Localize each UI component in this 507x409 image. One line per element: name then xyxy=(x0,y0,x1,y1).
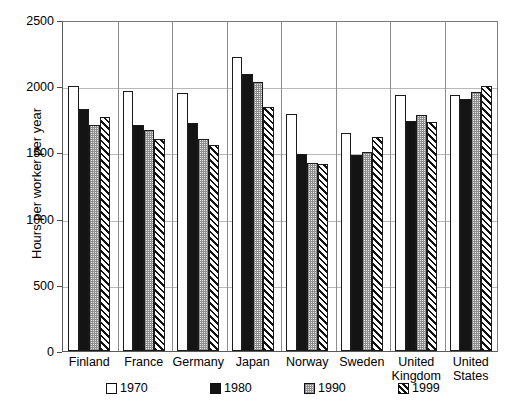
group-separator xyxy=(281,22,282,351)
legend-swatch-1980 xyxy=(210,383,221,394)
x-label-japan: Japan xyxy=(226,355,281,369)
x-label-finland: Finland xyxy=(62,355,117,369)
legend-swatch-1970 xyxy=(106,383,117,394)
x-label-germany: Germany xyxy=(171,355,226,369)
group-separator xyxy=(118,22,119,351)
bar-finland-1990 xyxy=(89,125,99,351)
group-separator xyxy=(172,22,173,351)
x-label-line: Japan xyxy=(226,355,281,369)
bar-united-states-1999 xyxy=(481,86,491,351)
x-label-united-states: UnitedStates xyxy=(444,355,499,383)
plot-area xyxy=(62,21,498,352)
y-tick-label: 1500 xyxy=(8,147,54,159)
chart-legend: 1970198019901999 xyxy=(62,381,498,401)
bar-norway-1999 xyxy=(318,164,328,351)
bar-japan-1980 xyxy=(242,74,252,351)
y-tick-label: 1000 xyxy=(8,214,54,226)
bar-united-kingdom-1980 xyxy=(406,121,416,351)
x-label-line: Sweden xyxy=(335,355,390,369)
legend-label: 1970 xyxy=(120,381,148,395)
bar-france-1970 xyxy=(123,91,133,351)
bar-united-kingdom-1970 xyxy=(395,95,405,351)
group-separator xyxy=(390,22,391,351)
group-separator xyxy=(336,22,337,351)
y-axis-tick-labels: 05001000150020002500 xyxy=(8,0,54,409)
bar-germany-1980 xyxy=(188,123,198,351)
x-label-sweden: Sweden xyxy=(335,355,390,369)
bar-sweden-1990 xyxy=(362,152,372,351)
y-tick-label: 2500 xyxy=(8,15,54,27)
bar-norway-1970 xyxy=(286,114,296,351)
bar-united-states-1980 xyxy=(460,99,470,351)
x-label-line: Finland xyxy=(62,355,117,369)
bar-germany-1970 xyxy=(177,93,187,351)
x-label-line: Germany xyxy=(171,355,226,369)
bar-sweden-1970 xyxy=(341,133,351,351)
bar-japan-1970 xyxy=(232,57,242,351)
bar-germany-1999 xyxy=(209,145,219,351)
legend-item-1970[interactable]: 1970 xyxy=(106,381,148,395)
bar-sweden-1999 xyxy=(372,137,382,351)
bar-germany-1990 xyxy=(198,139,208,352)
group-separator xyxy=(227,22,228,351)
legend-label: 1999 xyxy=(412,381,440,395)
x-label-line: France xyxy=(117,355,172,369)
legend-label: 1990 xyxy=(318,381,346,395)
bar-japan-1990 xyxy=(253,82,263,351)
bar-united-kingdom-1990 xyxy=(416,115,426,351)
bar-france-1990 xyxy=(144,130,154,351)
legend-item-1990[interactable]: 1990 xyxy=(304,381,346,395)
x-label-line: United xyxy=(444,355,499,369)
x-label-line: United xyxy=(389,355,444,369)
gridline xyxy=(63,88,497,89)
bar-united-kingdom-1999 xyxy=(427,122,437,351)
bar-finland-1999 xyxy=(100,117,110,351)
y-tick-mark xyxy=(57,352,62,353)
legend-swatch-1990 xyxy=(304,383,315,394)
x-label-united-kingdom: UnitedKingdom xyxy=(389,355,444,383)
bar-chart: Hours per worker per year 05001000150020… xyxy=(0,0,507,409)
y-tick-label: 500 xyxy=(8,280,54,292)
legend-swatch-1999 xyxy=(398,383,409,394)
x-label-norway: Norway xyxy=(280,355,335,369)
y-tick-label: 2000 xyxy=(8,81,54,93)
y-tick-label: 0 xyxy=(8,346,54,358)
x-label-france: France xyxy=(117,355,172,369)
legend-item-1999[interactable]: 1999 xyxy=(398,381,440,395)
x-label-line: Norway xyxy=(280,355,335,369)
bar-united-states-1990 xyxy=(471,92,481,352)
legend-label: 1980 xyxy=(224,381,252,395)
bar-japan-1999 xyxy=(263,107,273,351)
bar-finland-1970 xyxy=(68,86,78,351)
bar-united-states-1970 xyxy=(450,95,460,351)
bar-france-1980 xyxy=(133,125,143,351)
bar-sweden-1980 xyxy=(351,155,361,351)
bar-finland-1980 xyxy=(79,109,89,351)
bar-france-1999 xyxy=(154,139,164,351)
group-separator xyxy=(445,22,446,351)
bar-norway-1990 xyxy=(307,163,317,351)
legend-item-1980[interactable]: 1980 xyxy=(210,381,252,395)
bar-norway-1980 xyxy=(297,154,307,351)
